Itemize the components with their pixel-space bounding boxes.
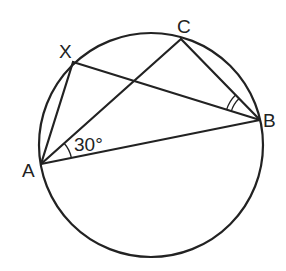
circle-geometry-diagram: A B C X 30° bbox=[0, 0, 286, 271]
angle-label-A: 30° bbox=[74, 134, 103, 155]
label-A: A bbox=[22, 160, 35, 181]
label-B: B bbox=[263, 110, 276, 131]
angle-arc-A bbox=[64, 143, 71, 158]
label-C: C bbox=[177, 16, 191, 37]
label-X: X bbox=[59, 41, 72, 62]
angle-arc-B-outer bbox=[227, 95, 236, 110]
angle-arc-B-inner bbox=[231, 99, 239, 112]
